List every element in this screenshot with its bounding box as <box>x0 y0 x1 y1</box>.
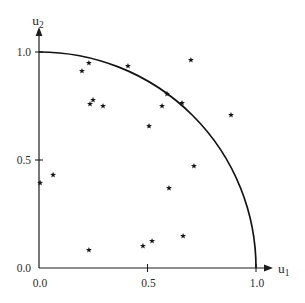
x-tick-label: 0.0 <box>33 277 48 289</box>
scatter-plot-svg: 0.00.51.00.00.51.0u2u1 <box>0 0 305 303</box>
y-tick-label: 0.0 <box>17 262 32 274</box>
plot-background <box>0 0 305 303</box>
x-tick-label: 1.0 <box>250 277 265 289</box>
x-tick-label: 0.5 <box>141 277 156 289</box>
y-tick-label: 1.0 <box>17 46 32 58</box>
y-tick-label: 0.5 <box>17 154 32 166</box>
quarter-circle-scatter-figure: 0.00.51.00.00.51.0u2u1 <box>0 0 305 303</box>
